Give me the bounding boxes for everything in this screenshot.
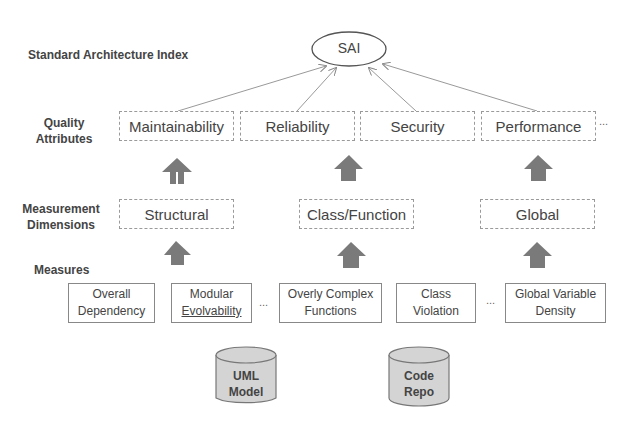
measure-line2: Evolvability <box>181 303 241 320</box>
measure-line1: Global Variable <box>515 286 596 303</box>
measure-line2: Dependency <box>78 303 145 320</box>
dimension-class-function: Class/Function <box>299 199 414 229</box>
edge-security-sai <box>369 68 416 111</box>
data-source-line1: UML <box>216 368 276 384</box>
measure-line1: Modular <box>181 286 241 303</box>
arrow-up-icon <box>334 155 363 181</box>
measures-gap-2: ... <box>486 294 495 306</box>
dimension-structural: Structural <box>119 199 234 229</box>
edge-reliability-sai <box>297 68 336 111</box>
quality-attribute-maintainability: Maintainability <box>119 111 234 141</box>
diagram-title: Standard Architecture Index <box>28 47 188 63</box>
data-source-code-repo: Code Repo <box>389 368 449 400</box>
measures-gap-1: ... <box>259 296 268 308</box>
measure-line1: Class <box>413 286 459 303</box>
measure-class-violation: ClassViolation <box>396 283 476 323</box>
level-label-measures: Measures <box>34 262 89 278</box>
measure-line2: Density <box>515 303 596 320</box>
data-source-line2: Repo <box>389 384 449 400</box>
dimension-global: Global <box>480 199 595 229</box>
edge-performance-sai <box>383 64 537 111</box>
quality-attributes-more: ... <box>599 115 608 127</box>
data-source-line2: Model <box>216 384 276 400</box>
arrow-up-icon <box>524 155 553 181</box>
level-label-quality-attributes: Quality Attributes <box>24 115 104 147</box>
level-label-measurement-dimensions: Measurement Dimensions <box>14 201 108 233</box>
data-source-uml-model: UML Model <box>216 368 276 400</box>
sai-node-label: SAI <box>322 40 376 56</box>
quality-attribute-security: Security <box>360 111 475 141</box>
measure-line1: Overall <box>78 286 145 303</box>
quality-attribute-performance: Performance <box>481 111 596 141</box>
measure-global-variable-density: Global VariableDensity <box>505 283 606 323</box>
arrow-up-icon <box>164 241 191 265</box>
measure-modular-evolvability: ModularEvolvability <box>171 283 252 323</box>
measure-line2: Functions <box>288 303 373 320</box>
measure-line1: Overly Complex <box>288 286 373 303</box>
data-source-line1: Code <box>389 368 449 384</box>
measure-overly-complex-functions: Overly ComplexFunctions <box>279 283 382 323</box>
arrow-up-icon <box>523 242 552 268</box>
measure-line2: Violation <box>413 303 459 320</box>
arrow-up-icon <box>162 158 192 184</box>
measure-overall-dependency: OverallDependency <box>68 283 155 323</box>
arrow-up-icon <box>337 242 366 268</box>
quality-attribute-reliability: Reliability <box>240 111 355 141</box>
edge-maintainability-sai <box>178 66 326 111</box>
